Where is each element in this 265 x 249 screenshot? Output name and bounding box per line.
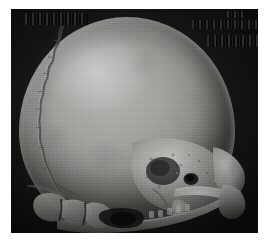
mandible-and-cervical-spine <box>27 185 251 233</box>
redaction-smear <box>227 11 243 18</box>
redaction-smear <box>25 13 88 25</box>
redaction-smear <box>207 35 258 47</box>
redacted-annotation-top-right <box>192 20 258 29</box>
redacted-annotation-top-left <box>25 13 88 25</box>
redaction-smear <box>192 20 258 29</box>
redacted-annotation-top-right-secondary <box>207 35 258 47</box>
redacted-annotation-corner-mark <box>227 11 243 18</box>
radiograph-panel <box>11 9 258 233</box>
ct-skull-figure <box>0 0 265 249</box>
